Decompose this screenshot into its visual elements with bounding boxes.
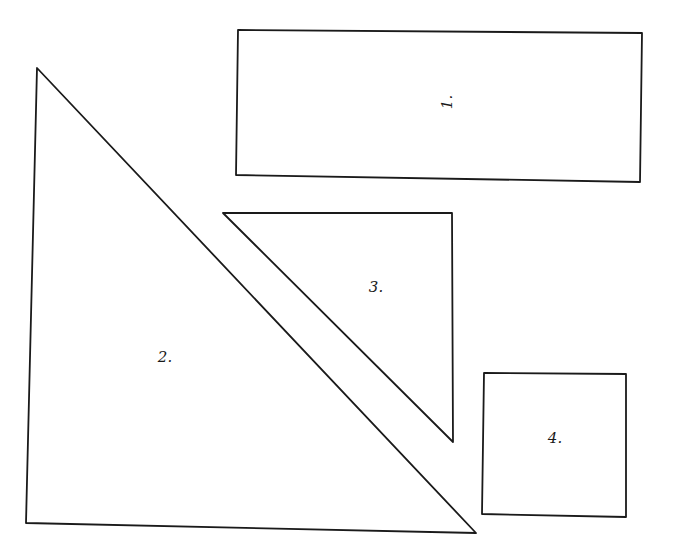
diagram-canvas: 1. 2. 3. 4.: [0, 0, 674, 558]
shape-3-small-triangle: 3.: [223, 213, 453, 442]
shape-3-label: 3.: [369, 278, 383, 296]
large-triangle-outline: [26, 68, 476, 533]
shape-1-rectangle: 1.: [236, 30, 642, 182]
shape-4-label: 4.: [547, 429, 562, 447]
shape-1-label: 1.: [438, 95, 456, 109]
shape-2-label: 2.: [157, 348, 172, 366]
shape-4-square: 4.: [482, 373, 626, 517]
shape-2-large-triangle: 2.: [26, 68, 476, 533]
small-triangle-outline: [223, 213, 453, 442]
